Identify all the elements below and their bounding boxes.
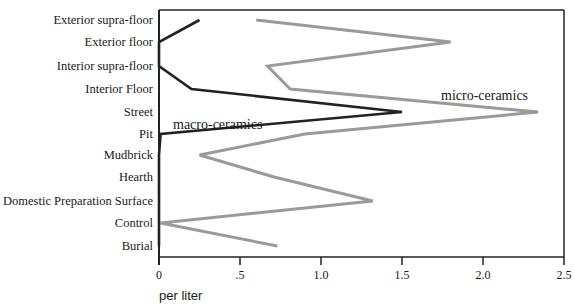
category-label: Hearth bbox=[119, 170, 154, 184]
x-axis-ticks: 0.51.01.52.02.5 bbox=[156, 257, 572, 282]
category-label: Control bbox=[115, 216, 154, 230]
micro-ceramics-line bbox=[161, 20, 538, 246]
category-label: Pit bbox=[139, 127, 153, 141]
x-axis-title: per liter bbox=[159, 288, 203, 303]
category-label: Exterior supra-floor bbox=[53, 13, 153, 27]
macro-ceramics-label: macro-ceramics bbox=[173, 117, 262, 132]
x-tick-label: 2.5 bbox=[557, 268, 572, 282]
series-lines bbox=[159, 20, 538, 246]
category-label: Street bbox=[124, 105, 154, 119]
category-label: Mudbrick bbox=[104, 148, 154, 162]
x-tick-label: 1.5 bbox=[395, 268, 410, 282]
category-labels: Exterior supra-floorExterior floorInteri… bbox=[3, 13, 154, 253]
category-label: Burial bbox=[122, 239, 154, 253]
category-label: Exterior floor bbox=[85, 35, 154, 49]
micro-ceramics-label: micro-ceramics bbox=[441, 88, 528, 103]
x-tick-label: .5 bbox=[236, 268, 245, 282]
category-label: Interior Floor bbox=[85, 82, 154, 96]
category-label: Interior supra-floor bbox=[57, 59, 154, 73]
ceramics-density-chart: Exterior supra-floorExterior floorInteri… bbox=[0, 0, 574, 304]
plot-frame bbox=[159, 10, 564, 265]
x-tick-label: 1.0 bbox=[314, 268, 329, 282]
x-tick-label: 0 bbox=[156, 268, 162, 282]
category-label: Domestic Preparation Surface bbox=[3, 194, 153, 208]
x-tick-label: 2.0 bbox=[476, 268, 491, 282]
